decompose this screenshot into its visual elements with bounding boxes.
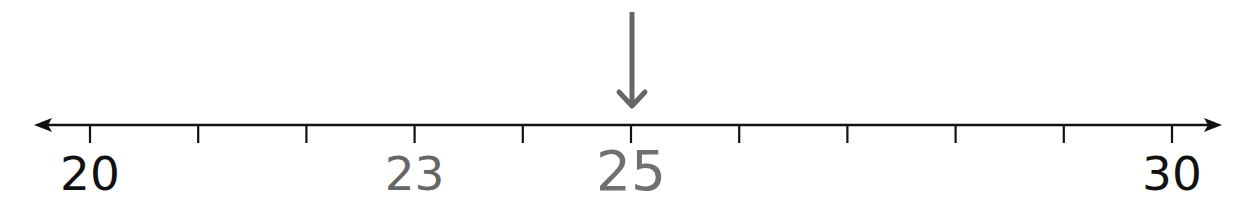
number-line-diagram: 20232530 xyxy=(0,0,1254,216)
tick-label-30: 30 xyxy=(1142,150,1202,197)
down-arrow-icon xyxy=(619,12,645,106)
tick-label-25: 25 xyxy=(596,144,666,199)
number-line-axis xyxy=(34,118,1222,132)
tick-label-23: 23 xyxy=(385,150,445,197)
tick-label-20: 20 xyxy=(60,150,120,197)
